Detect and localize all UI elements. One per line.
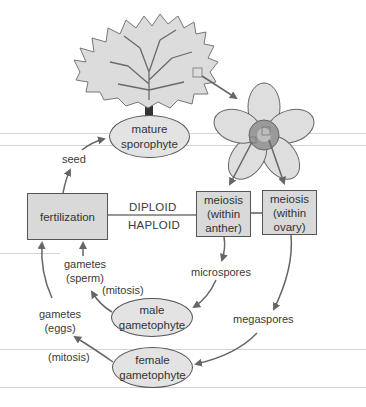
node-label: mature	[132, 122, 168, 137]
gametes-sperm-label: gametes (sperm)	[60, 257, 110, 285]
node-label: meiosis	[270, 192, 309, 206]
eggs-text: (eggs)	[35, 321, 85, 335]
tree-illustration	[74, 14, 218, 117]
fertilization-node: fertilization	[27, 193, 108, 240]
meiosis-anther-node: meiosis (within anther)	[196, 191, 251, 237]
seed-label: seed	[62, 152, 86, 166]
diploid-label: DIPLOID	[129, 200, 176, 214]
node-label: gametophyte	[119, 318, 186, 333]
node-label: male	[140, 303, 165, 318]
mature-sporophyte-node: mature sporophyte	[109, 115, 190, 158]
node-label: anther)	[205, 221, 241, 235]
node-label: sporophyte	[121, 137, 178, 152]
male-gametophyte-node: male gametophyte	[111, 298, 193, 337]
haploid-label: HAPLOID	[128, 218, 180, 232]
node-label: (within	[273, 206, 306, 220]
node-label: meiosis	[204, 193, 243, 207]
node-label: female	[135, 353, 170, 368]
female-gametophyte-node: female gametophyte	[112, 347, 193, 388]
gametes-eggs-label: gametes (eggs)	[35, 307, 85, 335]
mitosis-female-label: (mitosis)	[48, 350, 90, 364]
flower-illustration	[210, 83, 319, 186]
node-label: fertilization	[40, 210, 95, 224]
node-label: ovary)	[274, 220, 306, 234]
microspores-label: microspores	[191, 265, 251, 279]
meiosis-ovary-node: meiosis (within ovary)	[262, 190, 317, 235]
node-label: gametophyte	[119, 368, 186, 383]
gametes-text: gametes	[60, 257, 110, 271]
megaspores-label: megaspores	[233, 312, 294, 326]
mitosis-male-label: (mitosis)	[102, 283, 144, 297]
gametes-text: gametes	[35, 307, 85, 321]
node-label: (within	[207, 207, 240, 221]
